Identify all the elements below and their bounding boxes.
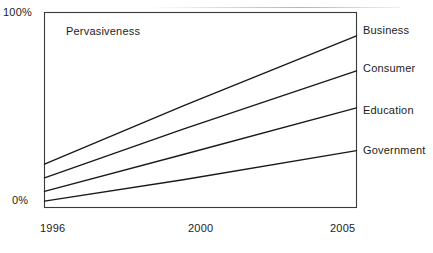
series-line-consumer	[45, 71, 357, 178]
series-line-government	[45, 151, 357, 202]
x-axis-tick-1996: 1996	[40, 222, 65, 234]
y-axis-label-bottom: 0%	[12, 194, 28, 206]
series-label-business: Business	[363, 24, 409, 36]
series-label-education: Education	[363, 104, 414, 116]
series-lines	[45, 36, 357, 201]
series-label-government: Government	[363, 144, 426, 156]
plot-annotation-pervasiveness: Pervasiveness	[66, 25, 140, 37]
plot-canvas	[0, 0, 433, 253]
x-axis-tick-2005: 2005	[330, 222, 355, 234]
series-line-education	[45, 108, 357, 192]
chart-container: 100% 0% 1996 2000 2005 Pervasiveness Bus…	[0, 0, 433, 253]
y-axis-label-top: 100%	[3, 6, 32, 18]
series-label-consumer: Consumer	[363, 62, 415, 74]
series-line-business	[45, 36, 357, 164]
x-axis-tick-2000: 2000	[188, 222, 213, 234]
